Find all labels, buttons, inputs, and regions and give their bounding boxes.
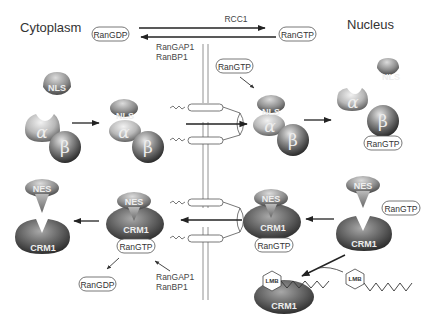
gtp-hydrolysis-arrow xyxy=(107,258,119,269)
rangap1-top-label: RanGAP1 xyxy=(156,42,195,52)
lmb-free: LMB xyxy=(346,269,412,291)
complex-rangtp-cyto-label: RanGTP xyxy=(119,242,152,252)
nls-label: NLS xyxy=(48,83,66,93)
rcc1-label: RCC1 xyxy=(224,14,247,24)
crm1-left-label: CRM1 xyxy=(30,243,56,253)
export-complex-cyto: NES CRM1 xyxy=(106,192,164,242)
alpha-right-label: α xyxy=(347,92,359,112)
beta-right-label: β xyxy=(378,111,388,131)
crm1-right: CRM1 xyxy=(336,216,392,251)
lmb-joining-curve xyxy=(318,268,343,273)
ran-gdp-top-label: RanGDP xyxy=(93,30,127,40)
ran-gtp-beta-label: RanGTP xyxy=(366,139,399,149)
complex-alpha-label: α xyxy=(118,122,130,142)
ran-gtp-entering-label: RanGTP xyxy=(218,62,251,72)
nes-right-label: NES xyxy=(354,181,373,191)
nes-cargo-right: NES xyxy=(346,176,380,208)
complex-nls-label: NLS xyxy=(116,111,134,121)
ran-gtp-free-right-label: RanGTP xyxy=(384,204,417,214)
ran-gdp-bottom-pill: RanGDP xyxy=(79,277,116,291)
ranbp1-bottom-label: RanBP1 xyxy=(156,282,188,292)
nls-right-label: NLS xyxy=(382,72,400,82)
import-complex-cyto: NLS α β xyxy=(109,99,164,163)
complex-crm1-cyto-label: CRM1 xyxy=(123,225,149,235)
ran-gdp-bottom-label: RanGDP xyxy=(80,280,114,290)
complex-nes-cyto-label: NES xyxy=(125,197,144,207)
ran-gtp-beta-pill: RanGTP xyxy=(364,136,402,150)
crm1-lmb-complex: CRM1 LMB xyxy=(254,271,329,314)
ran-gtp-free-right-pill: RanGTP xyxy=(382,201,420,215)
complex-beta-label: β xyxy=(143,137,153,157)
nuclear-transport-diagram: Cytoplasm Nucleus RanGDP RanGTP RCC1 Ran… xyxy=(0,0,433,323)
lmb-bound-label: LMB xyxy=(266,278,280,284)
ran-gtp-top-label: RanGTP xyxy=(281,30,314,40)
beta-label: β xyxy=(60,137,70,157)
complex-rangtp-nuc-label: RanGTP xyxy=(257,241,290,251)
nls-cargo-right: NLS xyxy=(377,58,400,82)
nes-left-label: NES xyxy=(33,184,52,194)
ranbp1-top-label: RanBP1 xyxy=(156,52,188,62)
nuclear-envelope xyxy=(203,44,208,300)
lmb-binding-arrow xyxy=(302,255,345,276)
nucleus-label: Nucleus xyxy=(347,17,394,32)
importin-beta-right: β xyxy=(367,105,399,137)
pore-complex-beta-label: β xyxy=(288,130,298,150)
crm1-bound-label: CRM1 xyxy=(271,301,297,311)
rangap1-bottom-label: RanGAP1 xyxy=(156,272,195,282)
complex-crm1-nuc-label: CRM1 xyxy=(260,223,286,233)
import-complex-nuclear: NLS α β xyxy=(253,95,309,156)
nes-cargo-left: NES xyxy=(25,179,59,213)
crm1-right-label: CRM1 xyxy=(351,239,377,249)
cytoplasm-label: Cytoplasm xyxy=(20,20,81,35)
importin-beta-left: β xyxy=(49,131,81,163)
ran-gdp-top-pill: RanGDP xyxy=(92,27,129,41)
nls-cargo-left: NLS xyxy=(43,72,71,95)
importin-alpha-right: α xyxy=(337,88,368,112)
lmb-free-label: LMB xyxy=(349,276,363,282)
complex-rangtp-cyto-pill: RanGTP xyxy=(117,239,155,253)
ran-gtp-entering-pill: RanGTP xyxy=(216,59,253,73)
pore-complex-alpha-label: α xyxy=(264,116,276,136)
alpha-label: α xyxy=(36,122,48,142)
complex-nes-nuc-label: NES xyxy=(262,194,281,204)
export-complex-nuclear: NES CRM1 xyxy=(243,189,301,240)
rangap-activation-arrow xyxy=(155,261,170,271)
complex-rangtp-nuc-pill: RanGTP xyxy=(255,238,293,252)
ran-gtp-binding-arrow xyxy=(240,77,254,88)
ran-gtp-top-pill: RanGTP xyxy=(279,27,316,41)
crm1-left: CRM1 xyxy=(15,219,70,254)
